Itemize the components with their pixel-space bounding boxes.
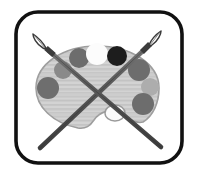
paint-well (69, 48, 89, 68)
paint-well (107, 46, 127, 66)
art-palette-icon: Artist Palette with Crossed Paintbrushes (0, 0, 197, 176)
paint-well (86, 43, 108, 65)
paint-well (37, 77, 59, 99)
paint-well (132, 93, 154, 115)
icon-canvas (0, 0, 197, 176)
